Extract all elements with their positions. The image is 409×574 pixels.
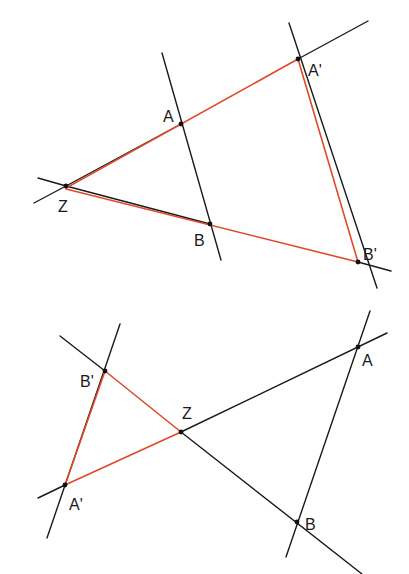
point-b bbox=[295, 520, 300, 525]
construction-line bbox=[298, 21, 368, 59]
construction-line bbox=[38, 178, 66, 186]
point-a bbox=[179, 122, 184, 127]
point-label-a: A bbox=[362, 352, 373, 369]
construction-line bbox=[162, 53, 221, 260]
image-triangle-side bbox=[298, 59, 358, 262]
construction-line bbox=[66, 186, 210, 224]
construction-line bbox=[60, 336, 105, 371]
figure-enlargement: ZABA'B' bbox=[34, 21, 391, 288]
point-label-b-prime: B' bbox=[363, 246, 377, 263]
image-triangle-side bbox=[66, 189, 358, 262]
image-triangle-side bbox=[105, 371, 181, 432]
point-label-z: Z bbox=[182, 405, 192, 422]
point-label-a-prime: A' bbox=[308, 62, 322, 79]
construction-line bbox=[181, 432, 362, 574]
point-a-prime bbox=[63, 483, 68, 488]
point-label-a: A bbox=[163, 108, 174, 125]
point-label-a-prime: A' bbox=[69, 496, 83, 513]
figure-negative-homothety: B'A'ZAB bbox=[38, 311, 387, 574]
point-a bbox=[356, 345, 361, 350]
point-label-b: B bbox=[305, 516, 316, 533]
point-z bbox=[179, 430, 184, 435]
homothety-diagram: ZABA'B' B'A'ZAB bbox=[0, 0, 409, 574]
point-label-b: B bbox=[194, 232, 205, 249]
image-triangle-side bbox=[65, 432, 181, 485]
point-b-prime bbox=[356, 260, 361, 265]
point-b bbox=[208, 222, 213, 227]
point-label-z: Z bbox=[58, 198, 68, 215]
point-z bbox=[64, 184, 69, 189]
point-b-prime bbox=[103, 369, 108, 374]
point-a-prime bbox=[296, 57, 301, 62]
construction-line bbox=[358, 262, 391, 271]
point-label-b-prime: B' bbox=[80, 373, 94, 390]
